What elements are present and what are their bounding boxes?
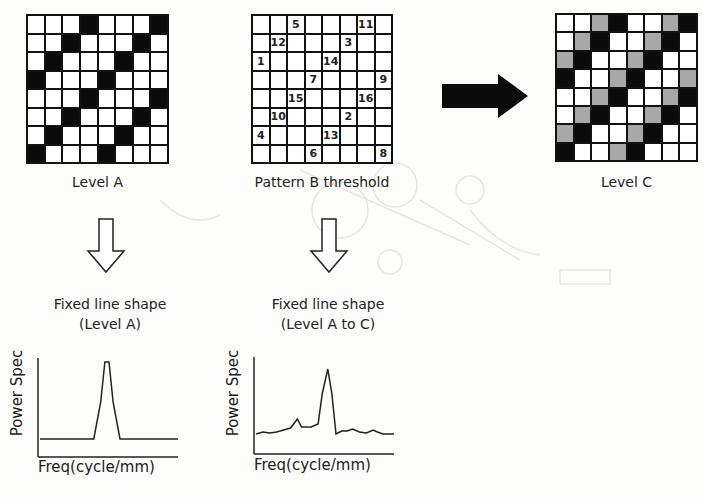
level-c-grid xyxy=(555,13,698,162)
grid-cell xyxy=(680,15,696,31)
grid-cell xyxy=(99,53,115,70)
grid-cell xyxy=(28,35,44,52)
grid-cell xyxy=(575,125,591,141)
grid-cell xyxy=(28,72,44,89)
chart-a: Power Spec Freq(cycle/mm) xyxy=(0,340,200,501)
threshold-cell: 4 xyxy=(253,127,269,144)
grid-cell xyxy=(628,144,644,160)
grid-cell xyxy=(592,15,608,31)
grid-cell xyxy=(99,72,115,89)
threshold-cell xyxy=(323,90,339,107)
grid-cell xyxy=(592,89,608,105)
threshold-cell xyxy=(288,127,304,144)
grid-cell xyxy=(151,72,167,89)
threshold-cell xyxy=(358,72,374,89)
grid-cell xyxy=(81,53,97,70)
grid-cell xyxy=(81,109,97,126)
grid-cell xyxy=(134,16,150,33)
grid-cell xyxy=(610,125,626,141)
threshold-cell xyxy=(323,16,339,33)
grid-cell xyxy=(575,144,591,160)
grid-cell xyxy=(63,35,79,52)
chart-a-title-line1: Fixed line shape xyxy=(20,296,200,312)
threshold-cell xyxy=(271,146,287,163)
threshold-cell xyxy=(288,146,304,163)
grid-cell xyxy=(28,53,44,70)
grid-cell xyxy=(663,125,679,141)
grid-cell xyxy=(134,146,150,163)
threshold-cell xyxy=(323,72,339,89)
grid-cell xyxy=(28,127,44,144)
grid-cell xyxy=(116,53,132,70)
threshold-cell xyxy=(271,90,287,107)
chart-b: Power Spec Freq(cycle/mm) xyxy=(216,340,416,501)
grid-cell xyxy=(592,52,608,68)
grid-cell xyxy=(645,52,661,68)
threshold-cell xyxy=(253,16,269,33)
grid-cell xyxy=(610,70,626,86)
grid-cell xyxy=(63,146,79,163)
grid-cell xyxy=(663,89,679,105)
threshold-cell: 13 xyxy=(323,127,339,144)
threshold-cell xyxy=(341,90,357,107)
grid-cell xyxy=(99,16,115,33)
level-a-label: Level A xyxy=(26,174,169,190)
grid-cell xyxy=(557,89,573,105)
chart-b-plot xyxy=(216,340,416,460)
threshold-cell xyxy=(253,146,269,163)
grid-cell xyxy=(575,33,591,49)
grid-cell xyxy=(46,53,62,70)
grid-cell xyxy=(628,89,644,105)
threshold-cell xyxy=(306,109,322,126)
grid-cell xyxy=(680,107,696,123)
grid-cell xyxy=(557,144,573,160)
threshold-cell xyxy=(271,127,287,144)
grid-cell xyxy=(63,16,79,33)
grid-cell xyxy=(628,15,644,31)
grid-cell xyxy=(116,109,132,126)
grid-cell xyxy=(134,127,150,144)
level-a-grid xyxy=(26,14,169,164)
threshold-cell xyxy=(288,35,304,52)
grid-cell xyxy=(134,53,150,70)
threshold-cell xyxy=(271,53,287,70)
grid-cell xyxy=(46,146,62,163)
chart-b-title-line1: Fixed line shape xyxy=(238,296,418,312)
threshold-cell xyxy=(253,90,269,107)
grid-cell xyxy=(680,125,696,141)
grid-cell xyxy=(81,146,97,163)
grid-cell xyxy=(63,72,79,89)
grid-cell xyxy=(628,33,644,49)
grid-cell xyxy=(151,90,167,107)
grid-cell xyxy=(680,33,696,49)
grid-cell xyxy=(116,90,132,107)
grid-cell xyxy=(81,16,97,33)
threshold-cell xyxy=(341,72,357,89)
grid-cell xyxy=(663,144,679,160)
right-arrow-icon xyxy=(440,74,530,118)
grid-cell xyxy=(28,90,44,107)
grid-cell xyxy=(28,109,44,126)
threshold-cell xyxy=(288,53,304,70)
grid-cell xyxy=(151,16,167,33)
grid-cell xyxy=(81,72,97,89)
grid-cell xyxy=(645,125,661,141)
grid-cell xyxy=(557,70,573,86)
grid-cell xyxy=(116,146,132,163)
grid-cell xyxy=(99,35,115,52)
grid-cell xyxy=(134,72,150,89)
grid-cell xyxy=(151,146,167,163)
grid-cell xyxy=(46,109,62,126)
grid-cell xyxy=(134,109,150,126)
grid-cell xyxy=(575,70,591,86)
grid-cell xyxy=(592,125,608,141)
threshold-cell xyxy=(271,72,287,89)
chart-b-title-line2: (Level A to C) xyxy=(238,316,418,332)
grid-cell xyxy=(116,127,132,144)
grid-cell xyxy=(134,35,150,52)
threshold-cell xyxy=(306,90,322,107)
grid-cell xyxy=(645,15,661,31)
grid-cell xyxy=(46,35,62,52)
grid-cell xyxy=(663,15,679,31)
grid-cell xyxy=(134,90,150,107)
